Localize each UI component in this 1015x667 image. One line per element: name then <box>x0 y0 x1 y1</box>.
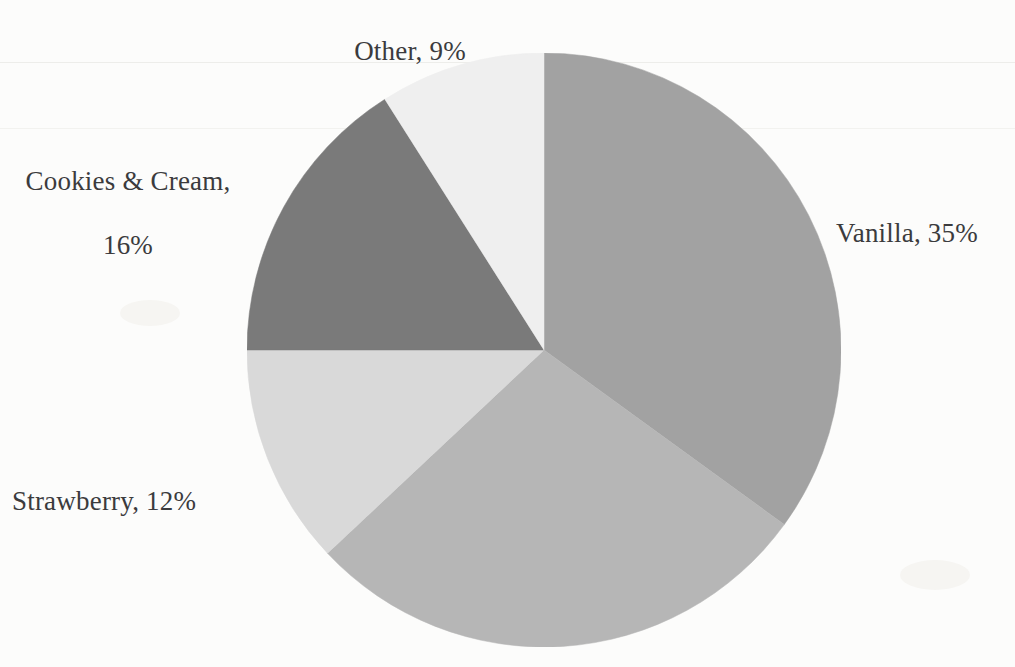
pie-slice-group <box>247 53 841 647</box>
slice-label-other: Other, 9% <box>310 4 510 68</box>
scan-artifact-blotch <box>120 300 180 326</box>
pie-chart-figure: Other, 9% Vanilla, 35% Cookies & Cream, … <box>0 0 1015 667</box>
slice-label-strawberry: Strawberry, 12% <box>12 454 262 518</box>
slice-label-vanilla: Vanilla, 35% <box>836 186 1015 250</box>
slice-label-cookies-and-cream: Cookies & Cream, 16% <box>4 134 252 261</box>
slice-label-cookies-and-cream-name: Cookies & Cream, <box>26 166 231 196</box>
slice-label-other-text: Other, 9% <box>354 36 466 66</box>
pie-svg <box>247 53 841 647</box>
pie-graphic <box>247 53 841 647</box>
scan-artifact-blotch <box>900 560 970 590</box>
slice-label-strawberry-text: Strawberry, 12% <box>12 486 196 516</box>
slice-label-vanilla-text: Vanilla, 35% <box>836 218 978 248</box>
slice-label-cookies-and-cream-percent: 16% <box>103 230 153 260</box>
